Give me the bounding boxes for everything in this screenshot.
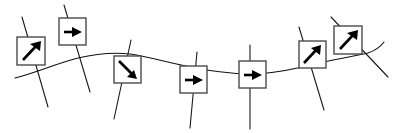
marker-6[interactable] bbox=[299, 41, 326, 68]
marker-3[interactable] bbox=[114, 56, 141, 83]
marker-5[interactable] bbox=[239, 61, 266, 88]
diagram-canvas bbox=[0, 0, 403, 133]
marker-2[interactable] bbox=[59, 18, 86, 45]
marker-1[interactable] bbox=[17, 37, 45, 65]
marker-7[interactable] bbox=[334, 26, 362, 54]
marker-4[interactable] bbox=[180, 66, 207, 93]
diagram-svg bbox=[0, 0, 403, 133]
